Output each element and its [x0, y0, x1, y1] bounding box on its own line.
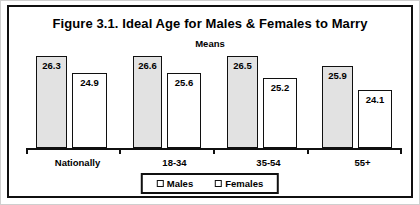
legend-item-males[interactable]: Males: [157, 178, 193, 189]
category-label-55-plus: 55+: [305, 157, 420, 168]
legend-swatch-females-icon: [215, 180, 222, 187]
chart-legend: Males Females: [141, 173, 279, 194]
chart-frame: Figure 3.1. Ideal Age for Males & Female…: [7, 5, 413, 198]
bar-females-nationally[interactable]: 24.9: [72, 73, 107, 148]
legend-label-females: Females: [225, 178, 263, 189]
axis-tick: [119, 149, 121, 154]
plot-area: 26.3 24.9 26.6 25.6 26.5 25.2 25.9: [20, 47, 402, 150]
bar-males-35-54[interactable]: 26.5: [227, 56, 258, 148]
bar-value: 24.9: [73, 77, 106, 88]
axis-tick: [400, 149, 402, 154]
bar-males-55-plus[interactable]: 25.9: [322, 66, 353, 148]
chart-title: Figure 3.1. Ideal Age for Males & Female…: [9, 16, 411, 31]
bar-females-55-plus[interactable]: 24.1: [358, 90, 392, 148]
bar-value: 26.3: [37, 60, 66, 71]
bar-value: 25.6: [168, 77, 200, 88]
bar-value: 25.9: [323, 70, 352, 81]
axis-tick: [26, 149, 28, 154]
bar-value: 24.1: [359, 94, 391, 105]
bar-value: 26.6: [134, 60, 161, 71]
bar-females-18-34[interactable]: 25.6: [167, 73, 201, 148]
axis-tick: [213, 149, 215, 154]
legend-item-females[interactable]: Females: [215, 178, 263, 189]
chart-figure: Figure 3.1. Ideal Age for Males & Female…: [0, 0, 420, 205]
legend-swatch-males-icon: [157, 180, 164, 187]
legend-label-males: Males: [167, 178, 193, 189]
bar-males-18-34[interactable]: 26.6: [133, 56, 162, 148]
bar-value: 26.5: [228, 60, 257, 71]
bar-males-nationally[interactable]: 26.3: [36, 56, 67, 148]
axis-tick: [307, 149, 309, 154]
bar-value: 25.2: [264, 82, 296, 93]
bar-females-35-54[interactable]: 25.2: [263, 78, 297, 148]
